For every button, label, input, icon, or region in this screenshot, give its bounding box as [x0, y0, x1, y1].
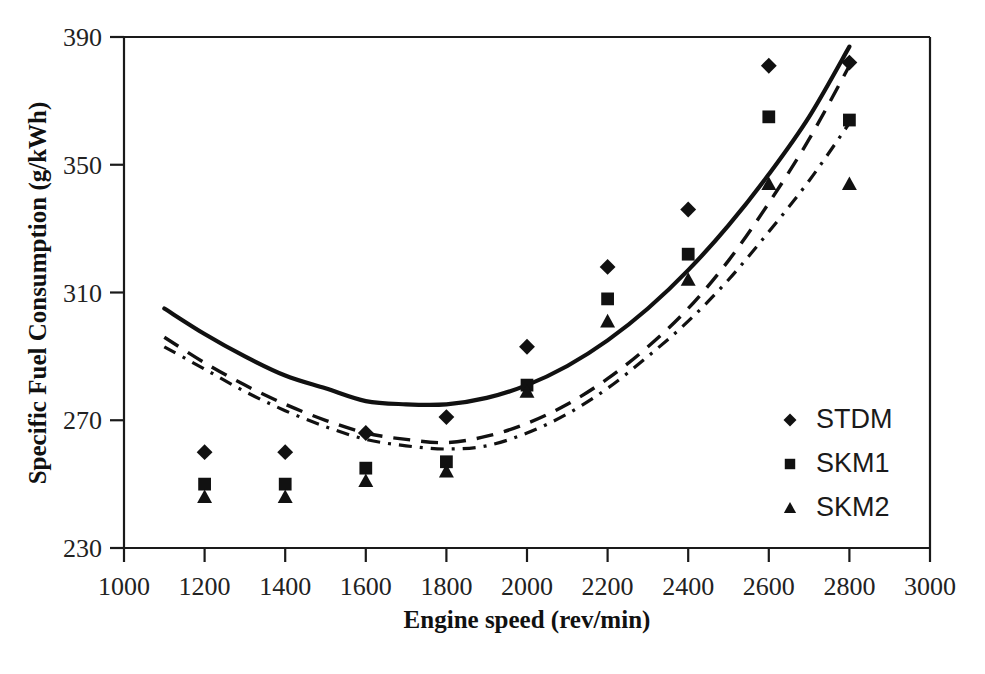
- marker-square: [843, 114, 856, 127]
- x-tick-label: 3000: [904, 572, 956, 601]
- marker-diamond: [438, 409, 454, 425]
- x-axis-title: Engine speed (rev/min): [404, 606, 651, 634]
- marker-diamond: [680, 202, 696, 218]
- marker-diamond: [761, 58, 777, 74]
- y-tick-label: 310: [63, 279, 102, 308]
- marker-square: [601, 293, 614, 306]
- marker-triangle: [278, 489, 293, 503]
- x-tick-label: 2200: [582, 572, 634, 601]
- marker-square: [198, 478, 211, 491]
- legend-label-skm1: SKM1: [816, 448, 890, 478]
- marker-square: [359, 462, 372, 475]
- marker-triangle: [358, 473, 373, 487]
- x-tick-label: 2000: [501, 572, 553, 601]
- x-tick-label: 1000: [98, 572, 150, 601]
- y-axis-title: Specific Fuel Consumption (g/kWh): [24, 102, 52, 485]
- marker-triangle: [600, 314, 615, 328]
- x-tick-label: 2600: [743, 572, 795, 601]
- x-axis-tick-labels: 1000120014001600180020002200240026002800…: [98, 572, 956, 601]
- fit-curves: [164, 47, 849, 449]
- marker-diamond: [358, 425, 374, 441]
- marker-square: [682, 248, 695, 261]
- marker-triangle: [842, 176, 857, 190]
- data-points: [197, 55, 858, 503]
- y-tick-label: 230: [63, 534, 102, 563]
- legend-label-skm2: SKM2: [816, 492, 890, 522]
- fit-curve-skm1: [164, 66, 849, 443]
- y-axis-tick-labels: 230270310350390: [63, 23, 102, 563]
- marker-diamond: [277, 444, 293, 460]
- marker-square: [279, 478, 292, 491]
- legend-item-skm2: SKM2: [784, 492, 890, 522]
- y-axis-ticks: [110, 37, 124, 548]
- legend: STDMSKM1SKM2: [784, 404, 893, 522]
- marker-diamond: [197, 444, 213, 460]
- legend-item-stdm: STDM: [784, 404, 893, 434]
- x-tick-label: 2400: [662, 572, 714, 601]
- x-tick-label: 1600: [340, 572, 392, 601]
- legend-label-stdm: STDM: [816, 404, 893, 434]
- x-tick-label: 1800: [420, 572, 472, 601]
- marker-diamond: [519, 339, 535, 355]
- x-axis-ticks: [124, 548, 930, 562]
- marker-triangle: [197, 489, 212, 503]
- fuel-consumption-chart: 230270310350390 100012001400160018002000…: [0, 0, 985, 674]
- marker-square: [785, 459, 795, 469]
- fit-curve-skm2: [164, 123, 849, 449]
- y-tick-label: 350: [63, 151, 102, 180]
- y-tick-label: 270: [63, 406, 102, 435]
- marker-diamond: [784, 414, 797, 427]
- marker-diamond: [600, 259, 616, 275]
- x-tick-label: 2800: [823, 572, 875, 601]
- marker-square: [762, 110, 775, 123]
- x-tick-label: 1200: [179, 572, 231, 601]
- legend-item-skm1: SKM1: [785, 448, 890, 478]
- x-tick-label: 1400: [259, 572, 311, 601]
- y-tick-label: 390: [63, 23, 102, 52]
- fit-curve-stdm: [164, 47, 849, 405]
- marker-triangle: [784, 502, 796, 513]
- series-points-stdm: [197, 55, 858, 460]
